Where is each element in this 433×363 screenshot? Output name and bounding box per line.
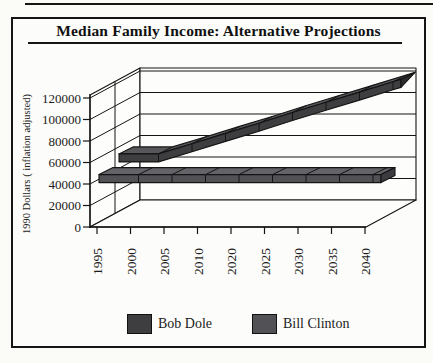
y-tick-label: 100000 (42, 112, 81, 127)
x-tick-label: 2025 (258, 248, 273, 275)
legend-label: Bill Clinton (283, 316, 350, 332)
x-tick-label: 2035 (325, 248, 340, 275)
legend-label: Bob Dole (158, 316, 212, 332)
chart-floor (90, 200, 416, 227)
legend-item-bob-dole: Bob Dole (127, 313, 212, 335)
legend-swatch-bob-dole (127, 314, 152, 334)
x-tick-label: 2000 (124, 248, 139, 275)
y-tick-label: 20000 (49, 198, 82, 213)
legend-swatch-bill-clinton (252, 314, 277, 334)
y-tick-label: 40000 (49, 177, 82, 192)
y-tick-label: 80000 (49, 134, 82, 149)
3d-ribbon-chart: 0200004000060000800001000001200001995200… (0, 0, 433, 363)
x-tick-label: 2010 (191, 248, 206, 275)
x-tick-label: 2005 (157, 248, 172, 275)
x-tick-label: 1995 (90, 248, 105, 275)
y-tick-label: 0 (75, 220, 82, 235)
x-tick-label: 2020 (224, 248, 239, 275)
legend-item-bill-clinton: Bill Clinton (252, 313, 350, 335)
y-axis-title: 1990 Dollars ( inflation adjusted) (21, 88, 35, 240)
ribbon-front-bill-clinton (99, 175, 381, 183)
x-tick-label: 2030 (291, 248, 306, 275)
y-tick-label: 120000 (42, 91, 81, 106)
x-tick-label: 2040 (358, 248, 373, 275)
y-tick-label: 60000 (49, 155, 82, 170)
